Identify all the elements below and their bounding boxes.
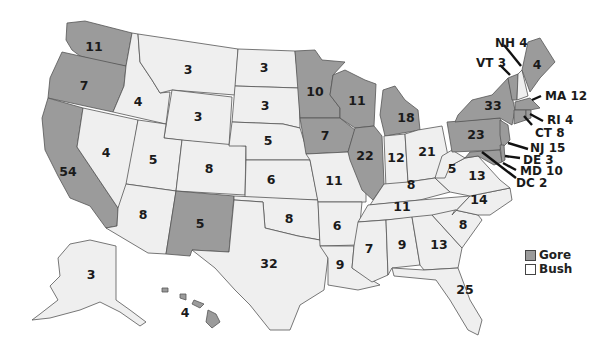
legend-label-bush: Bush: [539, 262, 572, 276]
callout-nh: NH 4: [495, 37, 528, 49]
label-ga: 13: [430, 239, 447, 252]
label-nc: 14: [470, 194, 487, 207]
callout-ri: RI 4: [547, 114, 573, 126]
callout-dc: DC 2: [516, 177, 547, 189]
label-me: 4: [533, 59, 542, 72]
label-mn: 10: [306, 86, 323, 99]
label-co: 8: [205, 163, 214, 176]
label-sc: 8: [459, 219, 468, 232]
state-hi-maui: [192, 300, 204, 308]
label-nm: 5: [196, 218, 205, 231]
label-oh: 21: [418, 146, 435, 159]
label-wi: 11: [348, 95, 365, 108]
label-tn: 11: [393, 201, 410, 214]
label-ks: 6: [267, 174, 276, 187]
label-va: 13: [468, 170, 485, 183]
state-fl: [392, 268, 482, 335]
callout-ct: CT 8: [535, 127, 565, 139]
label-mi: 18: [397, 112, 414, 125]
label-ok: 8: [285, 213, 294, 226]
label-az: 8: [139, 209, 148, 222]
gore-swatch-icon: [525, 250, 536, 261]
state-ks: [245, 160, 318, 200]
callout-vt: VT 3: [476, 57, 506, 69]
state-hi-kauai: [162, 288, 168, 292]
label-tx: 32: [260, 258, 277, 271]
legend-item-gore: Gore: [525, 248, 572, 262]
label-wv: 5: [448, 163, 457, 176]
legend: Gore Bush: [525, 248, 572, 276]
state-hi-oahu: [180, 294, 186, 300]
leader-de: [505, 156, 520, 158]
state-ma: [515, 98, 540, 110]
label-fl: 25: [456, 284, 473, 297]
label-ak: 3: [87, 269, 96, 282]
label-wy: 3: [194, 111, 203, 124]
label-mo: 11: [325, 175, 342, 188]
label-pa: 23: [467, 129, 484, 142]
legend-item-bush: Bush: [525, 262, 572, 276]
label-al: 9: [398, 239, 407, 252]
state-ak: [32, 240, 146, 326]
label-in: 12: [387, 152, 404, 165]
label-nd: 3: [260, 62, 269, 75]
leader-nj: [508, 143, 528, 149]
label-ca: 54: [59, 166, 76, 179]
leader-ri: [530, 114, 543, 121]
state-hi-big: [206, 310, 220, 328]
label-id: 4: [134, 96, 143, 109]
callout-ma: MA 12: [545, 90, 587, 102]
label-ms: 7: [365, 243, 374, 256]
bush-swatch-icon: [525, 264, 536, 275]
label-ky: 8: [407, 179, 416, 192]
label-ny: 33: [484, 100, 501, 113]
leader-ma: [532, 96, 541, 100]
label-ia: 7: [321, 130, 330, 143]
label-wa: 11: [85, 41, 102, 54]
label-hi: 4: [181, 307, 190, 320]
label-or: 7: [80, 80, 89, 93]
label-ar: 6: [333, 220, 342, 233]
label-sd: 3: [261, 100, 270, 113]
label-ne: 5: [264, 135, 273, 148]
label-nv: 4: [102, 147, 111, 160]
label-la: 9: [336, 259, 345, 272]
label-ut: 5: [149, 154, 158, 167]
label-mt: 3: [184, 64, 193, 77]
label-il: 22: [356, 150, 373, 163]
legend-label-gore: Gore: [539, 248, 571, 262]
